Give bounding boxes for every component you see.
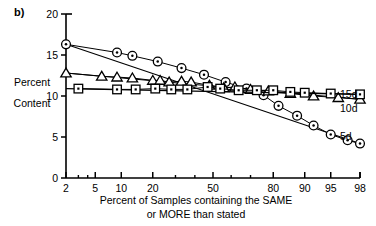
x-tick-label: 80 [267, 182, 279, 194]
data-point-square-center [359, 93, 361, 95]
x-tick-label: 98 [354, 182, 366, 194]
x-tick-label: 95 [325, 182, 337, 194]
y-axis-title-line1: Percent [14, 76, 50, 88]
data-point-square-center [330, 92, 332, 94]
y-tick-label: 20 [46, 8, 58, 20]
data-point-square-center [256, 89, 258, 91]
y-tick-label: 15 [46, 49, 58, 61]
x-tick-label: 50 [207, 182, 219, 194]
data-point-circle-center [329, 133, 332, 136]
data-point-circle-center [312, 124, 315, 127]
x-tick-label: 10 [115, 182, 127, 194]
y-tick-label: 5 [52, 131, 58, 143]
data-point-square-center [77, 88, 79, 90]
data-point-triangle [176, 76, 186, 85]
x-tick-label: 90 [299, 182, 311, 194]
x-axis-title-line2: or MORE than stated [147, 208, 246, 220]
data-point-square-center [219, 88, 221, 90]
legend-label-10d: 10d [340, 102, 358, 114]
x-axis-title-line1: Percent of Samples containing the SAME [100, 194, 293, 206]
data-point-circle-center [277, 105, 280, 108]
data-point-circle-center [359, 142, 362, 145]
chart-figure: 05101520251020508090959815d10d5db)Percen… [0, 0, 376, 226]
data-point-circle-center [156, 60, 159, 63]
data-point-circle-center [296, 114, 299, 117]
legend-label-5d: 5d [340, 130, 352, 142]
data-point-square-center [289, 91, 291, 93]
x-tick-label: 20 [147, 182, 159, 194]
y-axis-title-line2: Content [14, 97, 51, 109]
data-point-circle-center [65, 43, 68, 46]
x-tick-label: 5 [92, 182, 98, 194]
data-point-circle-center [180, 67, 183, 70]
data-point-square-center [135, 88, 137, 90]
data-point-square-center [170, 88, 172, 90]
data-point-circle-center [116, 51, 119, 54]
x-tick-label: 2 [63, 182, 69, 194]
data-point-circle-center [203, 73, 206, 76]
probability-plot: 05101520251020508090959815d10d5db)Percen… [0, 0, 376, 226]
legend-label-15d: 15d [340, 88, 358, 100]
data-point-square-center [154, 88, 156, 90]
data-point-square-center [304, 92, 306, 94]
data-point-square-center [116, 88, 118, 90]
data-point-square-center [207, 86, 209, 88]
data-point-triangle [61, 68, 71, 77]
data-point-circle-center [224, 81, 227, 84]
series-10d [61, 68, 365, 103]
data-point-circle-center [131, 55, 134, 58]
panel-label: b) [14, 6, 25, 18]
y-tick-label: 0 [52, 172, 58, 184]
data-point-square-center [238, 89, 240, 91]
data-point-square-center [186, 88, 188, 90]
data-point-square-center [272, 89, 274, 91]
